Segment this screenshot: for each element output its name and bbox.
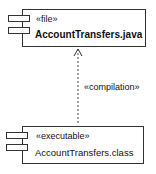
component-name: AccountTransfers.java <box>35 29 142 40</box>
component-tab-icon <box>8 27 30 34</box>
component-name: AccountTransfers.class <box>35 147 133 158</box>
stereotype-label: «executable» <box>36 131 90 141</box>
dependency-label: «compilation» <box>84 82 140 92</box>
component-tab-icon <box>6 144 28 151</box>
component-executable[interactable]: «executable» AccountTransfers.class <box>22 126 144 164</box>
stereotype-label: «file» <box>36 14 58 24</box>
component-tab-icon <box>8 15 30 22</box>
component-file[interactable]: «file» AccountTransfers.java <box>22 9 146 47</box>
component-tab-icon <box>6 132 28 139</box>
